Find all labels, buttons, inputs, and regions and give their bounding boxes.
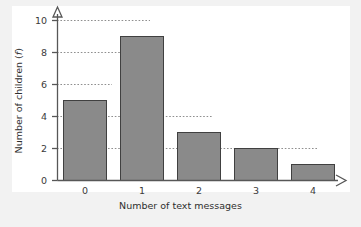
y-axis-ticks xyxy=(52,21,58,181)
y-tick-label-2: 2 xyxy=(25,144,47,154)
x-tick-label-4: 4 xyxy=(298,186,328,196)
y-tick-label-0: 0 xyxy=(25,176,47,186)
y-tick-label-10: 10 xyxy=(25,16,47,26)
y-tick-label-4: 4 xyxy=(25,112,47,122)
y-axis-title-symbol: f xyxy=(13,52,24,55)
y-axis-title: Number of children (f) xyxy=(14,26,24,176)
bar-category-3 xyxy=(235,149,278,181)
y-tick-label-8: 8 xyxy=(25,48,47,58)
bar-chart: 10 8 6 4 2 0 0 1 2 3 4 Number of text me… xyxy=(0,0,361,227)
bars xyxy=(64,37,335,181)
bar-category-2 xyxy=(178,133,221,181)
y-axis-title-text: Number of children xyxy=(13,62,24,153)
bar-category-0 xyxy=(64,101,107,181)
y-tick-label-6: 6 xyxy=(25,80,47,90)
x-axis-title: Number of text messages xyxy=(0,201,361,211)
y-axis xyxy=(52,7,62,181)
x-tick-label-2: 2 xyxy=(184,186,214,196)
bar-category-4 xyxy=(292,165,335,181)
bar-category-1 xyxy=(121,37,164,181)
x-tick-label-0: 0 xyxy=(70,186,100,196)
x-tick-label-3: 3 xyxy=(241,186,271,196)
x-tick-label-1: 1 xyxy=(127,186,157,196)
